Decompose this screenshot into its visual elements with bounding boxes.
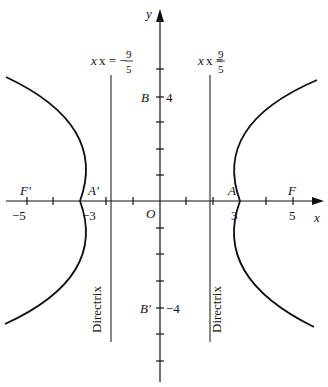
- tick-label-x-5: 5: [289, 208, 296, 223]
- tick-label-x-neg3: −3: [82, 208, 96, 223]
- svg-text:5: 5: [218, 63, 224, 75]
- point-label-b-prime: B′: [140, 301, 151, 316]
- point-label-a-prime: A′: [87, 183, 99, 198]
- hyperbola-diagram: y x O F′ A′ A F B B′ −5 −3 3 5 4 −4 x x …: [0, 0, 328, 387]
- directrix-left-text: Directrix: [89, 286, 104, 333]
- tick-label-x-neg5: −5: [12, 208, 26, 223]
- point-label-f-prime: F′: [19, 183, 31, 198]
- svg-text:x: x: [197, 53, 204, 68]
- point-label-b: B: [141, 90, 149, 105]
- origin-label: O: [146, 206, 156, 221]
- tick-label-y-4: 4: [166, 90, 173, 105]
- directrix-right-equation: x x = 9 5: [197, 48, 225, 75]
- x-axis: [6, 197, 324, 205]
- y-axis: [156, 9, 164, 382]
- svg-text:x: x: [90, 53, 97, 68]
- svg-text:9: 9: [126, 48, 132, 60]
- point-label-f: F: [287, 183, 297, 198]
- directrix-left-equation: x x = − 9 5: [90, 48, 133, 75]
- x-axis-label: x: [313, 210, 320, 225]
- point-label-a: A: [227, 183, 236, 198]
- svg-text:5: 5: [126, 63, 132, 75]
- tick-label-x-3: 3: [231, 208, 238, 223]
- tick-label-y-neg4: −4: [166, 301, 180, 316]
- svg-text:9: 9: [218, 48, 224, 60]
- hyperbola-right-branch: [234, 80, 317, 327]
- svg-text:x = −: x = −: [99, 53, 127, 68]
- y-axis-label: y: [144, 6, 152, 21]
- directrix-right-text: Directrix: [209, 286, 224, 333]
